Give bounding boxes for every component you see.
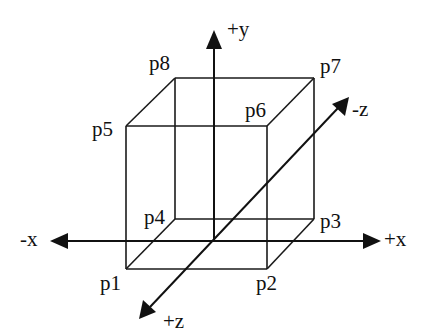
vertex-label-p8: p8 xyxy=(149,51,170,75)
arrow-pos-y-icon xyxy=(206,30,222,49)
axis-label-neg-z: -z xyxy=(352,97,368,121)
vertex-label-p5: p5 xyxy=(92,117,113,141)
vertex-label-p2: p2 xyxy=(256,271,277,295)
vertex-label-p4: p4 xyxy=(144,205,166,229)
vertex-label-p3: p3 xyxy=(320,209,341,233)
vertex-label-p6: p6 xyxy=(245,98,266,122)
edge-p6-p7 xyxy=(267,78,314,126)
vertex-label-p1: p1 xyxy=(100,271,121,295)
axis-label-pos-x: +x xyxy=(384,227,407,251)
arrow-pos-x-icon xyxy=(363,233,381,249)
cube-axes-diagram: +y -x +x -z +z p1 p2 p3 p4 p5 p6 p7 p8 xyxy=(0,0,431,336)
edge-p2-p3 xyxy=(267,219,314,269)
axis-label-pos-y: +y xyxy=(227,17,250,41)
edge-p5-p8 xyxy=(126,78,175,126)
vertex-label-p7: p7 xyxy=(320,54,341,78)
axis-label-neg-x: -x xyxy=(20,227,38,251)
axis-label-pos-z: +z xyxy=(163,309,184,333)
arrow-neg-z-icon xyxy=(332,97,349,116)
z-axis-line xyxy=(150,108,338,307)
arrow-neg-x-icon xyxy=(50,233,68,249)
